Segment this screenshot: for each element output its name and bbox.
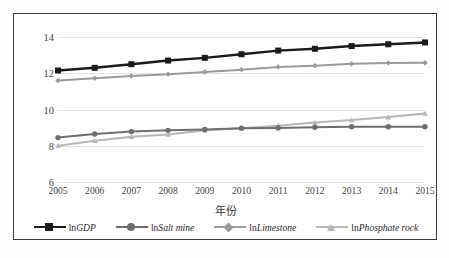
- data-point: [276, 125, 281, 130]
- x-tick-2008: 2008: [159, 185, 178, 196]
- y-tick-10: 10: [44, 104, 55, 115]
- x-axis-title: 年份: [14, 202, 438, 218]
- data-point: [312, 46, 318, 52]
- legend-label: lnPhosphate rock: [351, 222, 418, 233]
- x-tick-2015: 2015: [415, 185, 434, 196]
- data-point: [349, 124, 354, 129]
- gridline: [58, 182, 425, 183]
- series-lnsalt-mine: [55, 124, 427, 140]
- data-point: [128, 61, 134, 67]
- data-point: [312, 63, 317, 68]
- y-axis-tick-labels: 68101214: [32, 37, 54, 182]
- data-point: [165, 58, 171, 64]
- legend-label: lnGDP: [69, 222, 96, 233]
- series-lnlimestone: [55, 60, 427, 83]
- x-tick-2013: 2013: [342, 185, 361, 196]
- data-point: [92, 131, 97, 136]
- legend-item-lnlimestone[interactable]: lnLimestone: [214, 221, 296, 233]
- chart-legend: lnGDPlnSalt minelnLimestonelnPhosphate r…: [14, 221, 438, 233]
- data-point: [349, 43, 355, 49]
- data-point: [202, 55, 208, 61]
- data-point: [129, 129, 134, 134]
- legend-swatch-square-icon: [34, 221, 66, 233]
- data-point: [55, 68, 61, 74]
- y-tick-14: 14: [44, 32, 55, 43]
- legend-label: lnLimestone: [249, 222, 296, 233]
- data-point: [55, 78, 60, 83]
- data-point: [312, 125, 317, 130]
- series-lines: [58, 37, 425, 182]
- x-tick-2007: 2007: [122, 185, 141, 196]
- legend-item-lnphosphate-rock[interactable]: lnPhosphate rock: [316, 221, 418, 233]
- data-point: [422, 60, 427, 65]
- x-tick-2012: 2012: [305, 185, 324, 196]
- legend-label: lnSalt mine: [151, 222, 194, 233]
- legend-swatch-circle-icon: [116, 221, 148, 233]
- data-point: [386, 60, 391, 65]
- data-point: [239, 51, 245, 57]
- x-tick-2006: 2006: [85, 185, 104, 196]
- legend-swatch-diamond-icon: [214, 221, 246, 233]
- data-point: [202, 127, 207, 132]
- data-point: [386, 124, 391, 129]
- x-tick-2009: 2009: [195, 185, 214, 196]
- data-point: [239, 125, 244, 130]
- plot-area: [58, 37, 425, 182]
- data-point: [275, 48, 281, 54]
- data-point: [202, 69, 207, 74]
- x-tick-2011: 2011: [269, 185, 288, 196]
- x-tick-2010: 2010: [232, 185, 251, 196]
- data-point: [165, 71, 170, 76]
- data-point: [55, 135, 60, 140]
- chart-frame: 68101214 2005200620072008200920102011201…: [13, 13, 437, 240]
- legend-item-lngdp[interactable]: lnGDP: [34, 221, 96, 233]
- x-tick-2014: 2014: [379, 185, 398, 196]
- data-point: [165, 128, 170, 133]
- data-point: [239, 67, 244, 72]
- data-point: [92, 76, 97, 81]
- data-point: [385, 41, 391, 47]
- figure-container: 68101214 2005200620072008200920102011201…: [0, 0, 449, 258]
- x-axis-tick-labels: 2005200620072008200920102011201220132014…: [58, 185, 425, 201]
- legend-swatch-triangle-icon: [316, 221, 348, 233]
- y-tick-12: 12: [44, 68, 55, 79]
- x-tick-2005: 2005: [48, 185, 67, 196]
- data-point: [129, 73, 134, 78]
- data-point: [422, 124, 427, 129]
- data-point: [349, 61, 354, 66]
- data-point: [92, 65, 98, 71]
- y-tick-8: 8: [49, 140, 54, 151]
- data-point: [276, 64, 281, 69]
- data-point: [422, 39, 428, 45]
- legend-item-lnsalt-mine[interactable]: lnSalt mine: [116, 221, 194, 233]
